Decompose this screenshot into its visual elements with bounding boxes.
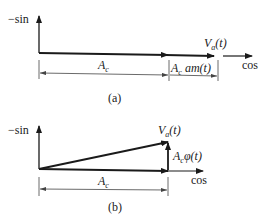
dim-label-ac-b: Ac [98,175,109,192]
vector-arg: (t) [169,123,180,137]
x-axis-label-a: cos [242,59,258,71]
vector-label-b: Va(t) [158,124,181,141]
vector-arg: (t) [215,36,226,50]
resultant-vector [39,142,168,169]
dim-rest: am(t) [182,61,211,75]
y-axis-label-a: −sin [8,13,29,25]
caption-b: (b) [108,201,122,213]
carrier-vector [39,53,168,55]
vector-label-a: Va(t) [204,37,227,54]
quad-rest: φ(t) [184,149,202,163]
phasor-diagrams [0,0,268,217]
dim-label-am-a: Ac am(t) [171,62,211,79]
caption-a: (a) [108,92,121,104]
dim-sub: c [105,65,109,74]
dim-sub: c [105,181,109,190]
carrier-vector [39,169,168,171]
x-axis-label-b: cos [191,174,207,186]
y-axis-label-b: −sin [8,124,29,136]
dim-label-ac-a: Ac [98,59,109,76]
am-vector [165,55,214,56]
quad-label-b: Acφ(t) [173,150,202,167]
